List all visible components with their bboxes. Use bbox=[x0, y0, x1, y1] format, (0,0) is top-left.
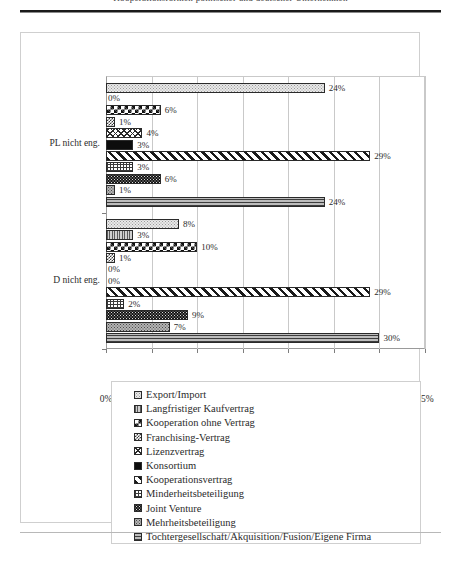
bar bbox=[106, 287, 370, 297]
plot-area bbox=[106, 76, 425, 349]
bar-value-label: 8% bbox=[183, 219, 195, 229]
bar-value-label: 1% bbox=[119, 117, 131, 127]
legend-label: Kooperation ohne Vertrag bbox=[146, 416, 255, 429]
bar bbox=[106, 299, 124, 309]
legend-item[interactable]: Langfristiger Kaufvertrag bbox=[134, 402, 254, 415]
x-tick-mark bbox=[379, 349, 380, 353]
gridline bbox=[379, 76, 380, 349]
legend-item[interactable]: Franchising-Vertrag bbox=[134, 431, 230, 444]
legend-swatch-icon bbox=[134, 490, 142, 498]
legend-swatch-icon bbox=[134, 405, 142, 413]
category-tick bbox=[102, 213, 106, 214]
bar bbox=[106, 242, 197, 252]
bar-value-label: 30% bbox=[383, 333, 400, 343]
bar bbox=[106, 333, 379, 343]
bar-value-label: 2% bbox=[128, 299, 140, 309]
bar-value-label: 0% bbox=[108, 93, 120, 103]
bar-value-label: 10% bbox=[201, 242, 218, 252]
bottom-rule bbox=[20, 532, 441, 533]
x-tick-mark bbox=[288, 349, 289, 353]
bar bbox=[106, 310, 188, 320]
legend-swatch-icon bbox=[134, 533, 142, 541]
x-tick-mark bbox=[197, 349, 198, 353]
bar bbox=[106, 117, 115, 127]
bar bbox=[106, 197, 325, 207]
bar-value-label: 3% bbox=[137, 162, 149, 172]
bar-value-label: 7% bbox=[174, 322, 186, 332]
gridline bbox=[425, 76, 426, 349]
legend-item[interactable]: Lizenzvertrag bbox=[134, 445, 204, 458]
bar bbox=[106, 128, 142, 138]
chart-legend: Export/ImportLangfristiger KaufvertragKo… bbox=[111, 381, 421, 544]
x-tick-mark bbox=[106, 349, 107, 353]
legend-label: Kooperationsvertrag bbox=[146, 473, 232, 486]
figure-page: Kooperationsformen polnischer und deutsc… bbox=[0, 0, 461, 561]
gridline bbox=[288, 76, 289, 349]
legend-item[interactable]: Konsortium bbox=[134, 459, 196, 472]
bar bbox=[106, 174, 161, 184]
x-tick-mark bbox=[425, 349, 426, 353]
bar-value-label: 24% bbox=[329, 83, 346, 93]
legend-label: Konsortium bbox=[146, 459, 196, 472]
legend-label: Minderheitsbeteiligung bbox=[146, 487, 244, 500]
bar bbox=[106, 105, 161, 115]
gridline bbox=[152, 76, 153, 349]
bar bbox=[106, 219, 179, 229]
bar-value-label: 3% bbox=[137, 230, 149, 240]
bar-value-label: 0% bbox=[108, 264, 120, 274]
legend-swatch-icon bbox=[134, 476, 142, 484]
bar bbox=[106, 151, 370, 161]
bar bbox=[106, 83, 325, 93]
legend-item[interactable]: Mehrheitsbeteiligung bbox=[134, 516, 236, 529]
legend-label: Export/Import bbox=[146, 388, 206, 401]
legend-label: Mehrheitsbeteiligung bbox=[146, 516, 236, 529]
legend-item[interactable]: Joint Venture bbox=[134, 502, 202, 515]
gridline bbox=[243, 76, 244, 349]
plot-wrap: 24%0%6%1%4%3%29%3%6%1%24%8%3%10%1%0%0%29… bbox=[106, 76, 425, 349]
bar-value-label: 29% bbox=[374, 287, 391, 297]
bar bbox=[106, 185, 115, 195]
legend-swatch-icon bbox=[134, 518, 142, 526]
category-label: PL nicht eng. bbox=[24, 138, 100, 148]
legend-swatch-icon bbox=[134, 504, 142, 512]
bar bbox=[106, 322, 170, 332]
category-label: D nicht eng. bbox=[24, 275, 100, 285]
legend-item[interactable]: Export/Import bbox=[134, 388, 206, 401]
bar-value-label: 1% bbox=[119, 253, 131, 263]
legend-item[interactable]: Kooperationsvertrag bbox=[134, 473, 232, 486]
bar-value-label: 9% bbox=[192, 310, 204, 320]
bar-value-label: 29% bbox=[374, 151, 391, 161]
legend-swatch-icon bbox=[134, 462, 142, 470]
legend-swatch-icon bbox=[134, 419, 142, 427]
bar bbox=[106, 140, 133, 150]
legend-label: Langfristiger Kaufvertrag bbox=[146, 402, 254, 415]
top-rule-shadow bbox=[20, 12, 441, 13]
gridline bbox=[197, 76, 198, 349]
legend-swatch-icon bbox=[134, 447, 142, 455]
figure-frame: 24%0%6%1%4%3%29%3%6%1%24%8%3%10%1%0%0%29… bbox=[20, 32, 420, 523]
gridline bbox=[334, 76, 335, 349]
bar bbox=[106, 253, 115, 263]
bar-value-label: 1% bbox=[119, 185, 131, 195]
legend-swatch-icon bbox=[134, 433, 142, 441]
bar bbox=[106, 230, 133, 240]
bar-value-label: 0% bbox=[108, 276, 120, 286]
legend-label: Joint Venture bbox=[146, 502, 202, 515]
legend-item[interactable]: Minderheitsbeteiligung bbox=[134, 487, 244, 500]
legend-swatch-icon bbox=[134, 391, 142, 399]
bar bbox=[106, 162, 133, 172]
legend-label: Lizenzvertrag bbox=[146, 445, 204, 458]
running-head: Kooperationsformen polnischer und deutsc… bbox=[0, 0, 461, 3]
x-tick-mark bbox=[152, 349, 153, 353]
bar-value-label: 24% bbox=[329, 197, 346, 207]
legend-label: Franchising-Vertrag bbox=[146, 431, 230, 444]
x-tick-mark bbox=[243, 349, 244, 353]
x-tick-mark bbox=[334, 349, 335, 353]
bar-value-label: 4% bbox=[146, 128, 158, 138]
bar-value-label: 6% bbox=[165, 174, 177, 184]
bar-value-label: 6% bbox=[165, 105, 177, 115]
bar-value-label: 3% bbox=[137, 140, 149, 150]
legend-item[interactable]: Kooperation ohne Vertrag bbox=[134, 416, 255, 429]
